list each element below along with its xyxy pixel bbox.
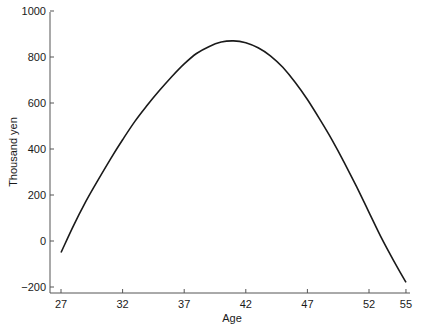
y-tick-label: 200 (28, 189, 46, 201)
x-tick-label: 52 (363, 298, 375, 310)
x-axis-label: Age (222, 312, 242, 324)
chart: −2000200400600800100027323742475255 Age … (0, 0, 421, 334)
x-tick-label: 37 (178, 298, 190, 310)
y-tick-label: 400 (28, 143, 46, 155)
x-tick-label: 42 (240, 298, 252, 310)
x-tick-label: 55 (400, 298, 412, 310)
x-tick-label: 47 (301, 298, 313, 310)
axes: −2000200400600800100027323742475255 (21, 5, 412, 310)
data-line (61, 41, 406, 283)
x-tick-label: 32 (116, 298, 128, 310)
y-tick-label: 800 (28, 51, 46, 63)
y-tick-label: 1000 (22, 5, 46, 17)
y-tick-label: −200 (21, 281, 46, 293)
y-axis-label: Thousand yen (7, 117, 19, 187)
x-tick-label: 27 (55, 298, 67, 310)
y-tick-label: 0 (40, 235, 46, 247)
y-tick-label: 600 (28, 97, 46, 109)
